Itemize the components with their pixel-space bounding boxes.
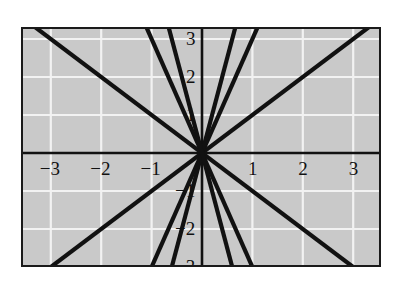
plot-area: −3−2−1123321−1−2−3 <box>21 27 381 267</box>
x-tick-label--2: −2 <box>90 159 110 178</box>
x-tick-label-3: 3 <box>349 159 359 178</box>
x-tick-label--3: −3 <box>40 159 60 178</box>
y-tick-label--3: −3 <box>175 257 195 267</box>
y-tick-label-3: 3 <box>186 29 196 48</box>
x-tick-label-2: 2 <box>298 159 308 178</box>
y-tick-label-2: 2 <box>186 67 196 86</box>
y-tick-label-1: 1 <box>186 105 196 124</box>
y-tick-label--1: −1 <box>175 181 195 200</box>
y-tick-label--2: −2 <box>175 219 195 238</box>
plot-canvas <box>23 29 379 265</box>
x-tick-label-1: 1 <box>248 159 258 178</box>
graph-figure: −3−2−1123321−1−2−3 <box>0 0 405 289</box>
x-tick-label--1: −1 <box>141 159 161 178</box>
